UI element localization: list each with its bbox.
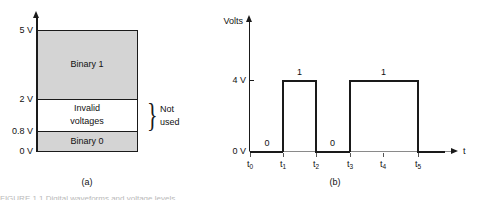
panel-b-xtick-mark-t3 — [350, 153, 351, 157]
panel-b-xtick-t5-sub: 5 — [417, 163, 421, 170]
panel-a-ytick-0v: 0 V — [0, 146, 33, 156]
waveform-high-segment-2 — [349, 80, 418, 82]
panel-b-xtick-mark-t4 — [383, 153, 384, 157]
panel-b-y-axis — [249, 22, 250, 151]
band-label-invalid-line1: Invalid — [37, 103, 137, 113]
level-line-0_8v — [37, 131, 137, 132]
panel-b-xtick-t4: t4 — [373, 159, 393, 170]
panel-a-ytick-5v: 5 V — [0, 25, 33, 35]
panel-b-xtick-t5: t5 — [408, 159, 428, 170]
band-box-right-edge — [137, 30, 138, 152]
figure-root: 5 V 2 V 0.8 V 0 V Binary 1 Invalid volta… — [0, 0, 488, 200]
not-used-brace: } — [147, 98, 158, 132]
panel-a-y-axis — [36, 18, 38, 152]
not-used-label-line1: Not — [160, 104, 174, 114]
waveform-level-label-0-first: 0 — [251, 138, 283, 148]
panel-b-x-axis-arrowhead — [451, 148, 458, 154]
panel-b-xtick-mark-t5 — [418, 153, 419, 157]
waveform-low-segment-2 — [315, 151, 350, 153]
panel-b-xtick-t4-sub: 4 — [382, 163, 386, 170]
panel-a-ytick-2v: 2 V — [0, 94, 33, 104]
panel-b-xtick-t3: t3 — [340, 159, 360, 170]
level-line-2v — [37, 99, 137, 100]
panel-b-y-axis-title: Volts — [210, 16, 243, 26]
level-line-0v — [37, 151, 137, 152]
waveform-level-label-1-first: 1 — [283, 67, 316, 77]
panel-b-xtick-t2-sub: 2 — [315, 163, 319, 170]
panel-b-ytick-0v: 0 V — [213, 146, 246, 156]
panel-b-x-axis-title: t — [463, 146, 466, 156]
band-label-invalid-line2: voltages — [37, 116, 137, 126]
not-used-label-line2: used — [160, 117, 180, 127]
waveform-falling-edge-t5 — [417, 80, 419, 152]
panel-b-caption: (b) — [305, 177, 365, 187]
panel-b-xtick-mark-t1 — [283, 153, 284, 157]
panel-b-xtick-mark-t2 — [316, 153, 317, 157]
waveform-level-label-0-second: 0 — [316, 138, 349, 148]
band-label-binary-0: Binary 0 — [37, 136, 137, 146]
band-label-binary-1: Binary 1 — [37, 59, 137, 69]
panel-a-caption: (a) — [47, 177, 127, 187]
waveform-low-segment-1 — [250, 151, 283, 153]
panel-a-ytick-0-8v: 0.8 V — [0, 126, 33, 136]
panel-b: Volts t 4 V 0 V 0 1 0 1 — [215, 0, 488, 200]
panel-b-xtick-mark-t0 — [250, 153, 251, 157]
level-line-5v — [37, 30, 137, 31]
waveform-rising-edge-t3 — [349, 80, 351, 152]
panel-b-ytick-mark-4v — [249, 80, 254, 81]
panel-b-xtick-t0-sub: 0 — [249, 163, 253, 170]
waveform-level-label-1-second: 1 — [350, 67, 417, 77]
waveform-low-segment-3 — [417, 151, 445, 153]
panel-b-y-axis-arrowhead — [246, 15, 252, 22]
panel-b-xtick-t1: t1 — [273, 159, 293, 170]
panel-b-xtick-t0: t0 — [240, 159, 260, 170]
panel-b-ytick-4v: 4 V — [213, 75, 246, 85]
panel-b-xtick-t1-sub: 1 — [282, 163, 286, 170]
panel-b-xtick-t3-sub: 3 — [349, 163, 353, 170]
panel-a: 5 V 2 V 0.8 V 0 V Binary 1 Invalid volta… — [0, 0, 215, 200]
waveform-high-segment-1 — [282, 80, 316, 82]
figure-caption: FIGURE 1.1 Digital waveforms and voltage… — [0, 194, 488, 200]
panel-b-xtick-t2: t2 — [306, 159, 326, 170]
panel-a-y-axis-arrowhead — [33, 11, 39, 18]
